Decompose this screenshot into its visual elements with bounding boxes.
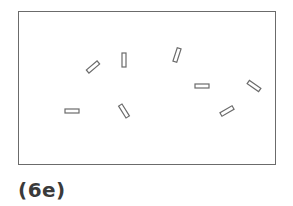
oriented-bar-1: [86, 61, 99, 73]
bars-layer: [0, 0, 293, 206]
figure-label: (6e): [18, 178, 66, 202]
oriented-bar-5: [247, 80, 261, 91]
oriented-bar-3: [173, 48, 181, 63]
oriented-bar-8: [220, 106, 234, 116]
oriented-bar-4: [195, 84, 209, 88]
oriented-bar-2: [122, 53, 126, 67]
oriented-bar-7: [119, 104, 130, 118]
oriented-bar-6: [65, 109, 79, 113]
